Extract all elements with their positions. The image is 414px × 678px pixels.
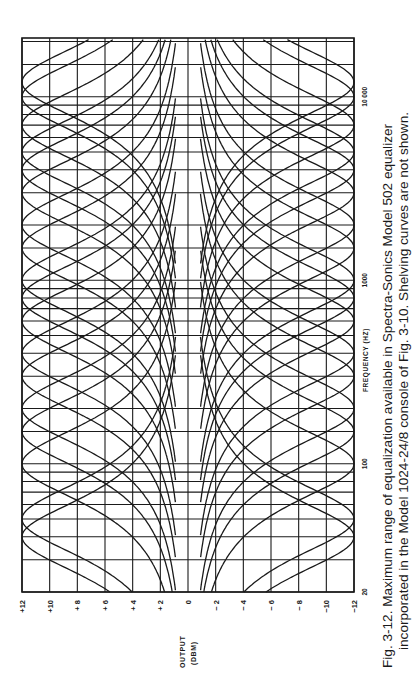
frequency-tick-label: 20	[361, 588, 368, 596]
y-axis-title-line1: OUTPUT	[179, 636, 186, 668]
db-tick-label: − 4	[239, 599, 248, 610]
figure-caption-line1: Fig. 3-12. Maximum range of equalization…	[380, 123, 395, 668]
db-tick-label: − 6	[267, 600, 276, 611]
boost-curve	[22, 40, 175, 334]
boost-curve	[22, 337, 176, 592]
frequency-tick-label: 100	[361, 458, 368, 469]
boost-curve	[22, 40, 176, 308]
db-gridlines	[22, 38, 354, 592]
db-tick-label: −12	[350, 600, 359, 613]
figure-caption-line2: incorporated in the Model 1024-24/8 cons…	[396, 112, 411, 650]
db-tick-label: + 8	[73, 600, 82, 611]
db-tick-labels: +12+10+ 8+ 6+ 4+ 20− 2− 4− 6− 8−10−12	[18, 599, 359, 613]
x-axis-title: FREQUENCY (HZ)	[362, 328, 370, 392]
eq-response-chart: +12+10+ 8+ 6+ 4+ 20− 2− 4− 6− 8−10−12 20…	[0, 0, 414, 678]
boost-curve	[22, 355, 175, 592]
cut-curve	[201, 40, 354, 334]
db-tick-label: −10	[322, 600, 331, 613]
y-axis-title-line2: (DBM)	[190, 641, 198, 665]
cut-curve	[201, 40, 355, 308]
db-tick-label: 0	[184, 600, 193, 604]
db-tick-label: + 4	[129, 599, 138, 610]
cut-curve	[201, 337, 355, 592]
boost-curve	[22, 40, 175, 279]
db-tick-label: +10	[46, 600, 55, 613]
db-tick-label: + 2	[156, 600, 165, 611]
frequency-tick-label: 10 000	[361, 86, 368, 106]
frequency-tick-label: 1000	[361, 273, 368, 288]
cut-curve	[201, 355, 354, 592]
db-tick-label: − 8	[295, 600, 304, 611]
db-tick-label: + 6	[101, 600, 110, 611]
db-tick-label: − 2	[212, 600, 221, 611]
db-tick-label: +12	[18, 600, 27, 613]
cut-curve	[201, 40, 354, 279]
